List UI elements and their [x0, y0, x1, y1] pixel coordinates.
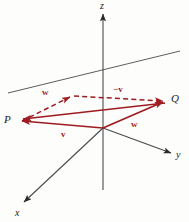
z-axis-label: z	[100, 1, 104, 11]
solid-vectors-group	[22, 102, 165, 128]
point-q-label: Q	[171, 93, 179, 104]
point-p-label: P	[4, 114, 11, 125]
v-lower-vector	[22, 121, 103, 128]
neg-v-vector	[74, 96, 163, 101]
vector-diagram-figure: z y x P Q w −v v w	[0, 0, 189, 222]
y-axis-line	[103, 128, 171, 153]
w-lower-label: w	[131, 120, 138, 129]
v-lower-label: v	[61, 130, 66, 139]
diagram-canvas	[0, 0, 189, 222]
x-axis-line	[24, 128, 103, 202]
y-axis-label: y	[176, 150, 180, 160]
w-upper-vector	[22, 97, 70, 121]
back-diagonal-line	[8, 51, 180, 93]
neg-v-label: −v	[113, 85, 123, 94]
axes-group	[8, 14, 180, 202]
x-axis-label: x	[15, 208, 19, 218]
w-upper-label: w	[42, 88, 49, 97]
